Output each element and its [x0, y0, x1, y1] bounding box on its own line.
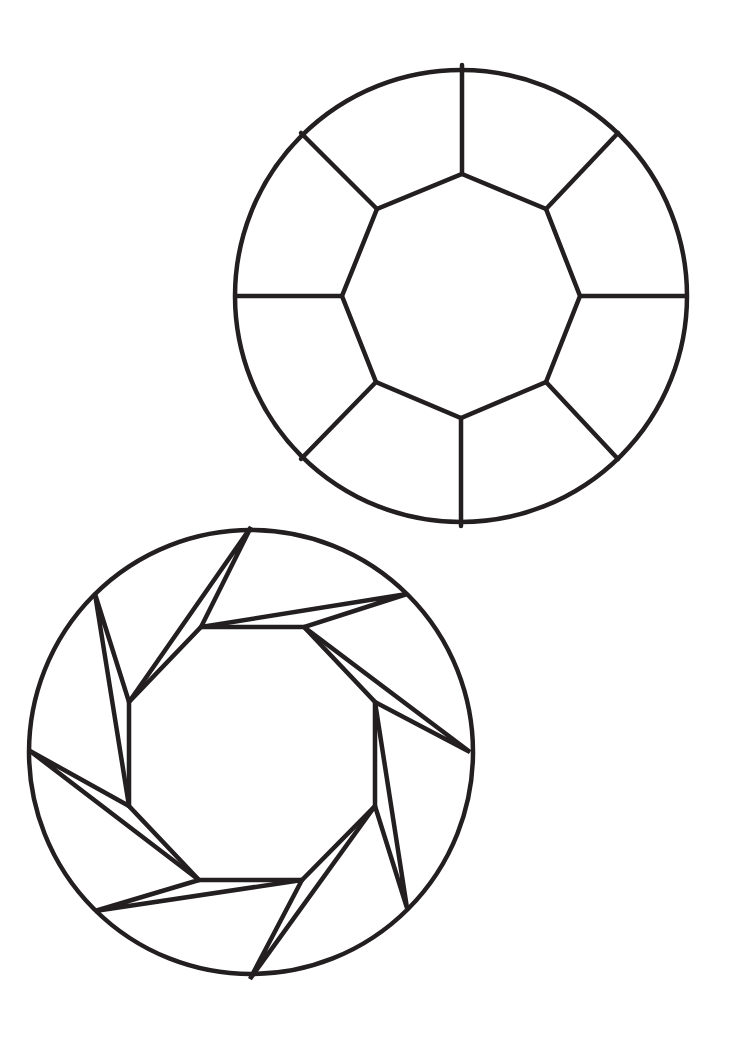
star-octagon-design	[29, 527, 473, 979]
drawing-canvas	[0, 0, 743, 1041]
spoke-line	[546, 133, 618, 209]
inner-octagon	[129, 627, 375, 880]
spoke-line	[301, 382, 376, 459]
spoke-line	[301, 133, 377, 209]
spoke-line	[546, 382, 618, 459]
octagon-ring-design	[235, 65, 687, 526]
